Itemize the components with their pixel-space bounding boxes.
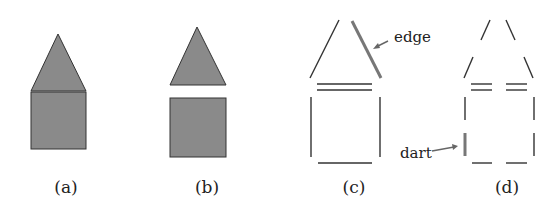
- panel-d-label: (d): [495, 177, 519, 197]
- dart-line: [506, 20, 515, 40]
- dart-line: [481, 20, 490, 40]
- figure-canvas: (a) (b) edge (c) dart: [0, 0, 559, 211]
- roof-triangle: [170, 27, 226, 85]
- roof-triangle: [31, 34, 86, 91]
- dart-arrow: [432, 147, 454, 151]
- edge-annotation: edge: [394, 28, 431, 46]
- panel-a: (a): [31, 34, 86, 197]
- body-square: [31, 92, 86, 149]
- dart-line: [464, 57, 473, 78]
- panel-b-label: (b): [195, 177, 219, 197]
- panel-c: [310, 20, 388, 163]
- dart-line: [524, 57, 533, 78]
- arrowhead-icon: [373, 43, 380, 49]
- dart-annotation: dart: [400, 144, 432, 162]
- panel-c-label: (c): [343, 177, 366, 197]
- panel-b: (b): [170, 27, 226, 197]
- edge-line: [310, 20, 339, 78]
- panel-a-label: (a): [54, 177, 77, 197]
- edge-highlighted: [352, 21, 381, 78]
- arrowhead-icon: [452, 144, 458, 150]
- body-square: [170, 98, 226, 157]
- panel-d: [432, 20, 534, 163]
